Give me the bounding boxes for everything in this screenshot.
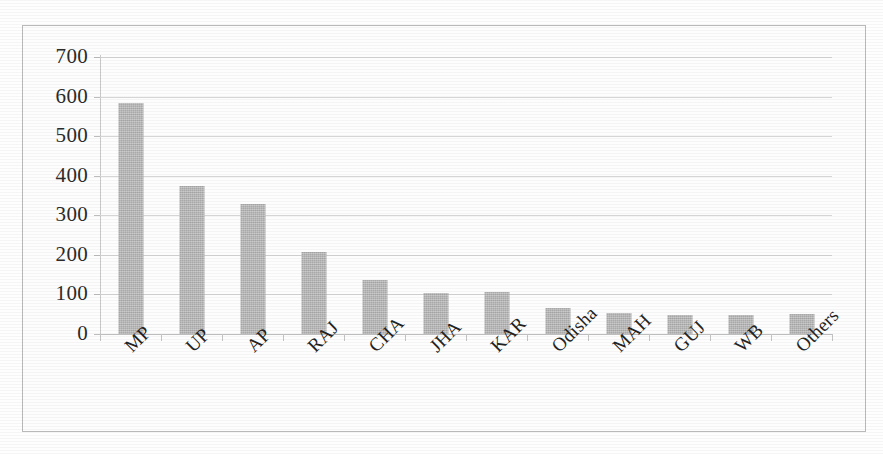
- bar-slot: [710, 57, 771, 334]
- bar-slot: [405, 57, 466, 334]
- y-axis-tick-labels: 7006005004003002001000: [26, 57, 88, 334]
- bar-slot: [771, 57, 832, 334]
- x-tick-mark: [832, 334, 833, 341]
- y-tick-label-300: 300: [26, 204, 88, 225]
- bar-slot: [222, 57, 283, 334]
- bar-slot: [649, 57, 710, 334]
- y-tick-label-500: 500: [26, 125, 88, 146]
- bar-slot: [588, 57, 649, 334]
- bar-slot: [344, 57, 405, 334]
- x-axis-category-labels: MPUPAPRAJCHAJHAKAROdishaMAHGUJWBOthers: [100, 336, 832, 431]
- bar-AP[interactable]: [240, 204, 265, 334]
- bar-UP[interactable]: [179, 186, 204, 334]
- y-tick-label-0: 0: [26, 323, 88, 344]
- bar-slot: [283, 57, 344, 334]
- y-tick-label-700: 700: [26, 46, 88, 67]
- plot-area: [100, 57, 832, 334]
- bar-MP[interactable]: [118, 103, 143, 334]
- chart-figure: 7006005004003002001000 MPUPAPRAJCHAJHAKA…: [0, 0, 883, 454]
- bar-slot: [161, 57, 222, 334]
- bar-slot: [100, 57, 161, 334]
- y-tick-label-100: 100: [26, 283, 88, 304]
- bar-series: [100, 57, 832, 334]
- y-tick-label-400: 400: [26, 165, 88, 186]
- bar-slot: [527, 57, 588, 334]
- y-tick-label-600: 600: [26, 86, 88, 107]
- bar-slot: [466, 57, 527, 334]
- y-tick-label-200: 200: [26, 244, 88, 265]
